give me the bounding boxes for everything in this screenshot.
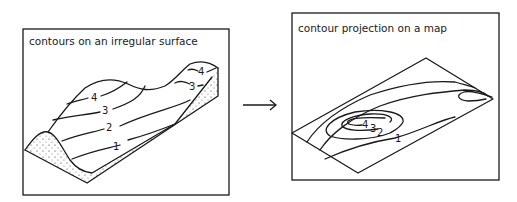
left-frame [23,29,229,195]
right-panel: contour projection on a map 4 3 2 1 [292,13,499,180]
contour-diagram: contours on an irregular surface 1 2 3 4… [0,0,517,202]
contour-line-4a [67,98,88,104]
contour-label: 2 [106,122,112,133]
contour-label: 3 [102,105,108,116]
contour-right-lobe [459,91,492,101]
contour-line-2a [62,129,104,141]
right-title: contour projection on a map [298,22,447,34]
map-plane [292,58,493,173]
contour-label: 1 [113,141,119,152]
contour-label: 3 [189,81,195,92]
contour-label: 4 [91,92,97,103]
left-panel: contours on an irregular surface 1 2 3 4… [23,29,229,195]
contour-1 [325,117,455,159]
contour-line-3b [113,86,145,109]
contour-line-4b [101,82,127,96]
left-title: contours on an irregular surface [29,35,198,47]
contour-label: 1 [395,133,401,144]
arrow-right-icon [243,100,276,110]
contour-label: 3 [370,123,376,134]
contour-label: 4 [362,119,368,130]
contour-label: 4 [198,66,204,77]
surface-ridge [48,62,218,132]
contour-label: 2 [377,127,383,138]
right-frame [292,13,499,180]
